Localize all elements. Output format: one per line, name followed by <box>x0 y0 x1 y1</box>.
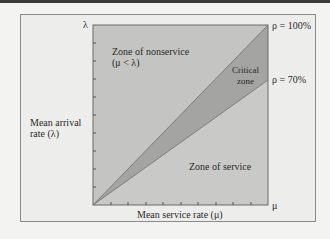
zone-nonservice-condition: (μ < λ) <box>112 57 140 68</box>
y-axis-label-line2: rate (λ) <box>30 128 59 139</box>
critical-zone-label-line1: Critical <box>232 65 259 75</box>
rho-70-label: ρ = 70% <box>272 74 306 85</box>
x-axis-symbol: μ <box>272 200 277 211</box>
rho-100-label: ρ = 100% <box>272 20 311 31</box>
zone-nonservice-label: Zone of nonservice <box>112 46 189 57</box>
zone-service-label: Zone of service <box>189 161 251 172</box>
y-axis-label-line1: Mean arrival <box>30 117 81 128</box>
x-axis-label: Mean service rate (μ) <box>137 209 223 220</box>
y-axis-symbol: λ <box>83 19 88 30</box>
critical-zone-label-line2: zone <box>237 76 254 86</box>
